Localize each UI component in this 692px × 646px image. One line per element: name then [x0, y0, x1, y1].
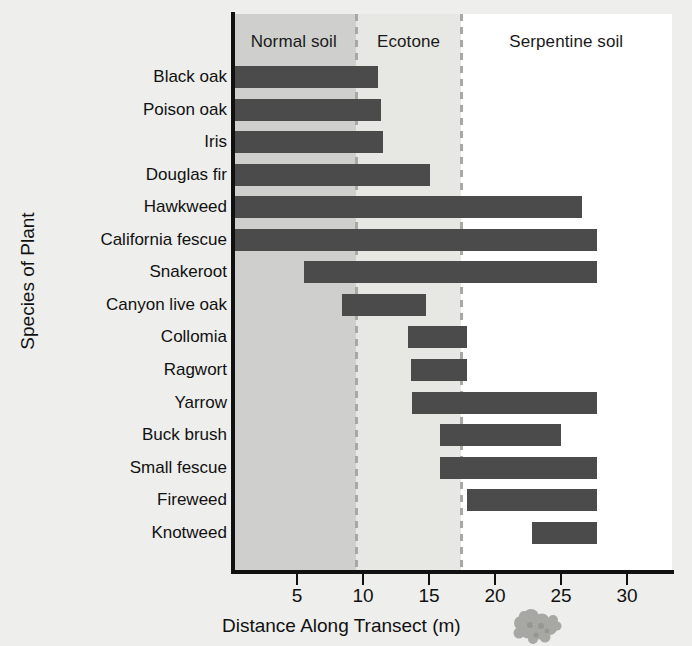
- x-tick-20: [494, 574, 496, 585]
- category-label-small-fescue: Small fescue: [7, 457, 227, 479]
- bar-yarrow: [412, 392, 597, 414]
- bar-california-fescue: [231, 229, 597, 251]
- category-label-hawkweed: Hawkweed: [7, 196, 227, 218]
- x-tick-label-5: 5: [292, 585, 303, 607]
- category-label-yarrow: Yarrow: [7, 392, 227, 414]
- x-tick-25: [560, 574, 562, 585]
- category-label-fireweed: Fireweed: [7, 489, 227, 511]
- category-label-douglas-fir: Douglas fir: [7, 164, 227, 186]
- y-axis-line: [231, 12, 235, 574]
- chart-figure: Normal soilEcotoneSerpentine soil Black …: [0, 0, 692, 646]
- category-label-knotweed: Knotweed: [7, 522, 227, 544]
- category-label-black-oak: Black oak: [7, 66, 227, 88]
- category-label-ragwort: Ragwort: [7, 359, 227, 381]
- category-label-buck-brush: Buck brush: [7, 424, 227, 446]
- bar-iris: [231, 131, 383, 153]
- plot-area: Normal soilEcotoneSerpentine soil: [233, 14, 672, 572]
- category-label-canyon-live-oak: Canyon live oak: [7, 294, 227, 316]
- bar-fireweed: [467, 489, 596, 511]
- plant-sprig-decoration: [495, 607, 573, 646]
- zone-divider-2: [460, 14, 463, 572]
- bar-douglas-fir: [231, 164, 430, 186]
- zone-label-ecotone: Ecotone: [377, 32, 440, 52]
- category-label-snakeroot: Snakeroot: [7, 261, 227, 283]
- bar-poison-oak: [231, 99, 381, 121]
- x-tick-label-15: 15: [418, 585, 439, 607]
- bar-ragwort: [411, 359, 468, 381]
- x-axis-title: Distance Along Transect (m): [222, 615, 461, 637]
- zone-label-serpentine-soil: Serpentine soil: [509, 32, 623, 52]
- bar-hawkweed: [231, 196, 582, 218]
- category-label-collomia: Collomia: [7, 326, 227, 348]
- category-label-iris: Iris: [7, 131, 227, 153]
- bar-knotweed: [532, 522, 597, 544]
- bar-snakeroot: [304, 261, 597, 283]
- x-tick-10: [362, 574, 364, 585]
- x-tick-15: [428, 574, 430, 585]
- y-axis-title: Species of Plant: [17, 201, 39, 361]
- bar-black-oak: [231, 66, 378, 88]
- bar-collomia: [408, 326, 467, 348]
- category-label-poison-oak: Poison oak: [7, 99, 227, 121]
- x-tick-label-10: 10: [352, 585, 373, 607]
- x-tick-label-25: 25: [550, 585, 571, 607]
- x-tick-label-30: 30: [616, 585, 637, 607]
- bar-canyon-live-oak: [342, 294, 426, 316]
- bar-buck-brush: [440, 424, 561, 446]
- x-tick-5: [296, 574, 298, 585]
- x-tick-label-20: 20: [484, 585, 505, 607]
- zone-label-normal-soil: Normal soil: [251, 32, 337, 52]
- category-label-california-fescue: California fescue: [7, 229, 227, 251]
- x-tick-30: [626, 574, 628, 585]
- bar-small-fescue: [440, 457, 597, 479]
